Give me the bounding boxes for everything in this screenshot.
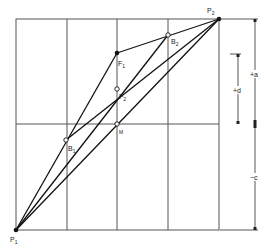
point-f1	[115, 51, 120, 56]
dim-label-d: +d	[233, 87, 241, 94]
label-f2: F2	[119, 93, 126, 102]
dimension-lines	[220, 19, 258, 230]
dim-label-a: +a	[250, 71, 258, 78]
geometry-diagram: P1 P2 F1 F2 B1 B2 M +a +d −c	[0, 0, 266, 248]
point-m	[115, 122, 119, 126]
label-p1: P1	[10, 236, 18, 245]
point-labels: P1 P2 F1 F2 B1 B2 M	[10, 7, 215, 245]
label-p2: P2	[207, 7, 215, 16]
line-p1-b2	[16, 35, 168, 230]
label-b1: B1	[68, 145, 76, 154]
point-p1	[14, 228, 19, 233]
dim-label-c: −c	[250, 174, 258, 181]
label-b2: B2	[171, 38, 179, 47]
point-b1	[64, 138, 68, 142]
point-b2	[166, 33, 170, 37]
dimension-ticks	[237, 19, 257, 230]
label-f1: F1	[118, 60, 125, 69]
line-b1-p2	[66, 19, 219, 140]
label-m: M	[119, 129, 123, 135]
point-f2	[115, 87, 119, 91]
